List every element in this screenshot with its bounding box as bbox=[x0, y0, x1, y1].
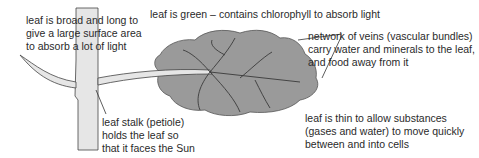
label-green-leaf: leaf is green – contains chlorophyll to … bbox=[150, 8, 380, 21]
label-thin-leaf: leaf is thin to allow substances (gases … bbox=[305, 112, 464, 151]
side-branch bbox=[20, 55, 76, 88]
label-broad-leaf: leaf is broad and long to give a large s… bbox=[26, 14, 142, 53]
label-leaf-stalk: leaf stalk (petiole) holds the leaf so t… bbox=[102, 116, 195, 155]
label-veins: network of veins (vascular bundles) carr… bbox=[308, 30, 475, 69]
